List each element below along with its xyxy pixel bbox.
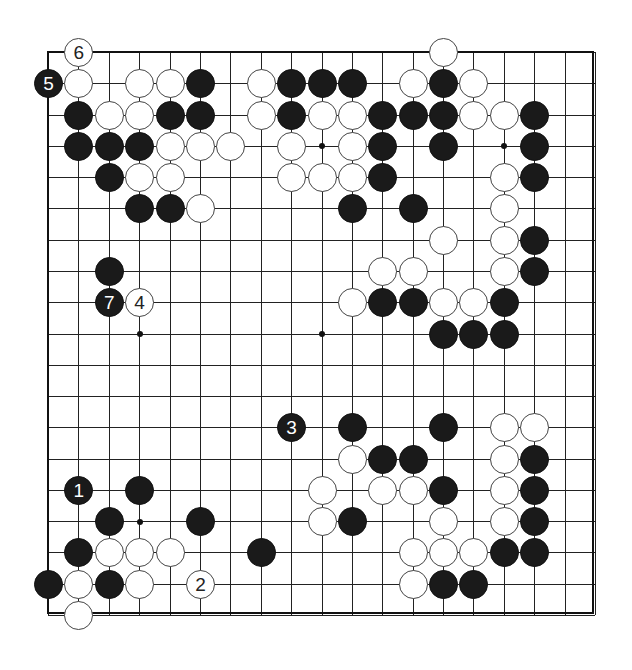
black-stone <box>64 101 93 130</box>
black-stone-move-7: 7 <box>95 288 124 317</box>
black-stone <box>247 538 276 567</box>
white-stone <box>186 132 215 161</box>
white-stone <box>308 476 337 505</box>
white-stone <box>338 132 367 161</box>
white-stone <box>429 226 458 255</box>
white-stone <box>216 132 245 161</box>
white-stone <box>490 507 519 536</box>
white-stone <box>429 38 458 67</box>
black-stone <box>95 507 124 536</box>
black-stone <box>520 476 549 505</box>
black-stone <box>429 570 458 599</box>
move-number: 2 <box>195 575 206 594</box>
white-stone <box>490 101 519 130</box>
black-stone <box>95 570 124 599</box>
black-stone <box>95 132 124 161</box>
star-point <box>319 331 325 337</box>
black-stone <box>95 163 124 192</box>
black-stone <box>338 69 367 98</box>
black-stone <box>368 101 397 130</box>
black-stone <box>490 288 519 317</box>
white-stone <box>490 257 519 286</box>
move-number: 5 <box>43 74 54 93</box>
white-stone <box>338 445 367 474</box>
black-stone <box>520 226 549 255</box>
black-stone <box>156 101 185 130</box>
star-point <box>137 331 143 337</box>
white-stone <box>399 257 428 286</box>
white-stone <box>156 69 185 98</box>
move-number: 4 <box>134 293 145 312</box>
white-stone-move-2: 2 <box>186 570 215 599</box>
white-stone <box>125 101 154 130</box>
white-stone <box>399 476 428 505</box>
white-stone <box>490 163 519 192</box>
white-stone <box>368 476 397 505</box>
black-stone <box>125 476 154 505</box>
black-stone <box>277 101 306 130</box>
black-stone <box>125 132 154 161</box>
black-stone <box>520 101 549 130</box>
white-stone <box>125 570 154 599</box>
black-stone <box>520 257 549 286</box>
white-stone <box>459 101 488 130</box>
black-stone <box>308 69 337 98</box>
move-number: 1 <box>74 481 85 500</box>
white-stone <box>156 163 185 192</box>
white-stone <box>308 507 337 536</box>
white-stone <box>247 69 276 98</box>
black-stone <box>490 320 519 349</box>
black-stone <box>459 570 488 599</box>
white-stone <box>247 101 276 130</box>
black-stone <box>34 570 63 599</box>
white-stone <box>308 163 337 192</box>
black-stone <box>459 320 488 349</box>
black-stone <box>429 101 458 130</box>
black-stone <box>338 507 367 536</box>
white-stone <box>490 226 519 255</box>
go-board: 6574312 <box>0 0 632 670</box>
white-stone <box>399 538 428 567</box>
white-stone <box>338 101 367 130</box>
white-stone <box>95 101 124 130</box>
black-stone <box>429 132 458 161</box>
black-stone <box>156 194 185 223</box>
black-stone <box>399 101 428 130</box>
move-number: 7 <box>104 293 115 312</box>
white-stone <box>64 601 93 630</box>
black-stone <box>64 132 93 161</box>
black-stone <box>368 132 397 161</box>
grid-col-line <box>595 52 596 615</box>
black-stone <box>399 288 428 317</box>
white-stone <box>399 570 428 599</box>
black-stone <box>429 476 458 505</box>
white-stone <box>490 476 519 505</box>
white-stone <box>399 69 428 98</box>
white-stone <box>156 132 185 161</box>
white-stone <box>277 132 306 161</box>
white-stone <box>338 163 367 192</box>
black-stone <box>186 507 215 536</box>
white-stone <box>308 101 337 130</box>
move-number: 3 <box>286 418 297 437</box>
white-stone <box>490 413 519 442</box>
white-stone <box>64 570 93 599</box>
black-stone <box>186 101 215 130</box>
black-stone <box>95 257 124 286</box>
black-stone <box>520 445 549 474</box>
black-stone <box>399 194 428 223</box>
black-stone <box>399 445 428 474</box>
black-stone <box>520 132 549 161</box>
white-stone <box>338 288 367 317</box>
star-point <box>137 519 143 525</box>
white-stone <box>490 445 519 474</box>
black-stone <box>429 320 458 349</box>
black-stone <box>186 69 215 98</box>
white-stone <box>156 538 185 567</box>
black-stone <box>368 445 397 474</box>
move-number: 6 <box>74 43 85 62</box>
grid-row-line <box>48 615 595 616</box>
white-stone <box>277 163 306 192</box>
